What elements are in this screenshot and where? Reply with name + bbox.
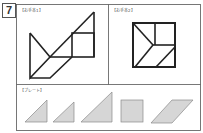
plate-label: 【プレート】 (20, 87, 44, 93)
piece-large-triangle (81, 92, 112, 122)
piece-parallelogram (151, 100, 193, 123)
example1-label: 【お手本1】 (20, 7, 43, 13)
puzzle-figure (0, 0, 203, 133)
plate-pieces (25, 92, 193, 123)
piece-square (121, 100, 143, 122)
piece-small-triangle-1 (25, 100, 47, 122)
piece-small-triangle-2 (53, 102, 74, 122)
example2-label: 【お手本2】 (112, 7, 135, 13)
example2-figure (133, 23, 175, 67)
example1-figure (30, 12, 94, 78)
